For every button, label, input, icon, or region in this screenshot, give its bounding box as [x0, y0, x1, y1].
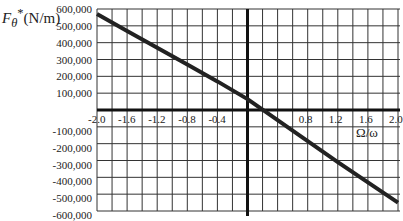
plot-area [0, 0, 400, 216]
